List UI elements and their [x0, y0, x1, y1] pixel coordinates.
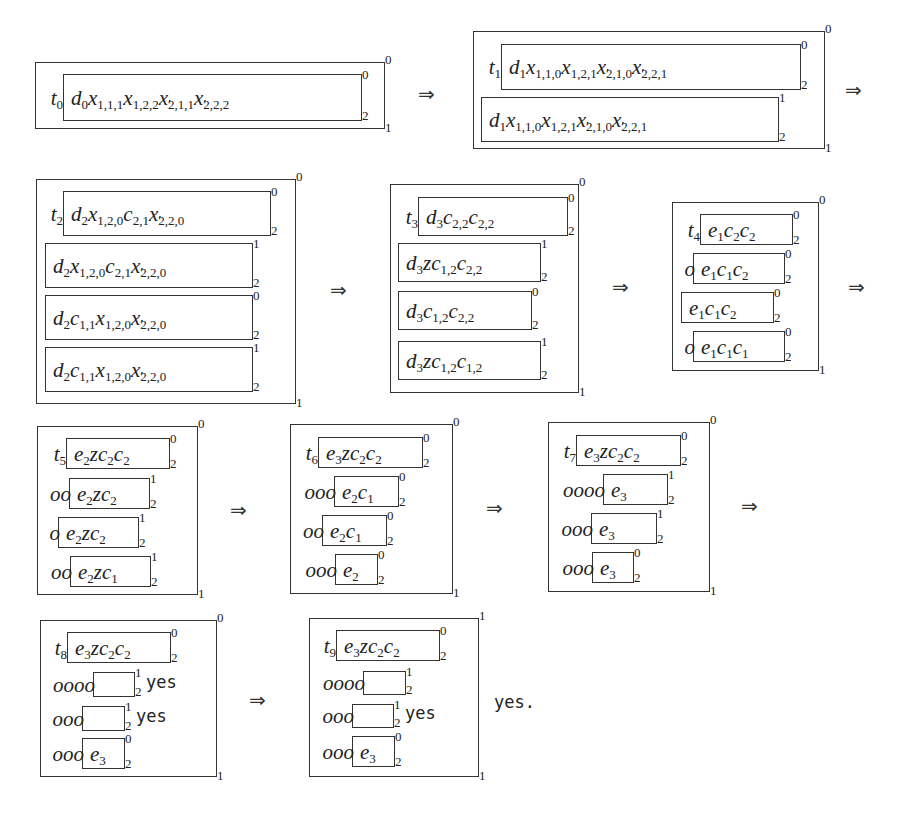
- cell-content: e3: [600, 556, 616, 580]
- cell-top-label: 0: [801, 38, 808, 51]
- cell-bottom-label: 2: [779, 130, 786, 143]
- outer-bottom-label: 1: [296, 396, 303, 409]
- cell-content: e2zc2: [77, 482, 117, 506]
- configuration-label: t5: [54, 442, 66, 466]
- outer-bottom-label: 1: [453, 586, 460, 599]
- cell-top-label: 1: [150, 472, 157, 485]
- position-marker: ooo: [305, 480, 337, 504]
- cell-top-label: 0: [681, 429, 688, 442]
- cell-top-label: 1: [668, 468, 675, 481]
- cell-bottom-label: 2: [423, 456, 430, 469]
- cell-content: d2c1,1x1,2,0x′2,2,0: [53, 306, 166, 330]
- cell-content: e3: [599, 517, 615, 541]
- position-marker: oooo: [323, 671, 365, 695]
- cell-top-label: 0: [634, 546, 641, 559]
- cell-bottom-label: 2: [125, 757, 132, 770]
- cell-content: d3c2,2c2,2: [426, 205, 494, 229]
- configuration-label: t1: [489, 55, 501, 79]
- cell-bottom-label: 2: [657, 532, 664, 545]
- cell-bottom-label: 2: [541, 368, 548, 381]
- position-marker: oooo: [53, 673, 95, 697]
- transition-arrow-icon: ⇒: [330, 280, 347, 300]
- cell-top-label: 0: [440, 624, 447, 637]
- cell-content: d2x1,2,0c2,1x′2,2,0: [71, 202, 184, 226]
- outer-top-label: 1: [479, 609, 486, 622]
- position-marker: ooo: [306, 558, 338, 582]
- transition-arrow-icon: ⇒: [741, 496, 758, 516]
- outer-bottom-label: 1: [217, 769, 224, 782]
- cell-content: d3c1,2c2,2: [406, 299, 474, 323]
- position-marker: oo: [51, 560, 72, 584]
- position-marker: ooo: [323, 740, 355, 764]
- cell-top-label: 0: [793, 208, 800, 221]
- cell-bottom-label: 2: [394, 716, 401, 729]
- cell-content: e2: [343, 558, 359, 582]
- cell-top-label: 1: [779, 91, 786, 104]
- cell-bottom-label: 2: [395, 755, 402, 768]
- cell-bottom-label: 2: [151, 575, 158, 588]
- transition-arrow-icon: ⇒: [612, 277, 629, 297]
- cell-bottom-label: 2: [532, 318, 539, 331]
- cell-bottom-label: 2: [785, 272, 792, 285]
- cell-bottom-label: 2: [171, 651, 178, 664]
- cell-content: d1x1,1,0x1,2,1x′2,1,0x′2,2,1: [509, 55, 667, 79]
- transition-arrow-icon: ⇒: [845, 80, 862, 100]
- cell-bottom-label: 2: [135, 685, 142, 698]
- position-marker: o: [685, 257, 696, 281]
- cell-top-label: 0: [532, 285, 539, 298]
- outer-top-label: 0: [579, 175, 586, 188]
- cell-top-label: 0: [171, 626, 178, 639]
- cell-top-label: 0: [774, 286, 781, 299]
- cell-top-label: 0: [395, 730, 402, 743]
- configuration-label: t8: [55, 636, 67, 660]
- position-marker: oooo: [563, 478, 605, 502]
- configuration-label: t3: [406, 205, 418, 229]
- position-marker: o: [50, 521, 61, 545]
- outer-top-label: 0: [825, 22, 832, 35]
- cell-top-label: 1: [541, 335, 548, 348]
- cell-top-label: 0: [785, 325, 792, 338]
- transition-arrow-icon: ⇒: [486, 498, 503, 518]
- position-marker: ooo: [53, 707, 85, 731]
- cell-content: e1c1c1: [701, 335, 748, 359]
- cell-bottom-label: 2: [793, 233, 800, 246]
- cell-box: [352, 704, 394, 728]
- transition-arrow-icon: ⇒: [418, 84, 435, 104]
- cell-top-label: 1: [657, 507, 664, 520]
- cell-box: [93, 672, 135, 697]
- outer-top-label: 0: [453, 415, 460, 428]
- cell-content: e2c1: [330, 519, 362, 543]
- configuration-label: t2: [51, 202, 63, 226]
- cell-content: e1c1c2: [689, 296, 736, 320]
- cell-top-label: 0: [170, 432, 177, 445]
- configuration-label: t6: [306, 441, 318, 465]
- cell-bottom-label: 2: [406, 683, 413, 696]
- cell-box: [363, 671, 406, 695]
- cell-content: d0x1,1,1x1,2,2x′2,1,1x′2,2,2: [71, 86, 229, 110]
- position-marker: oo: [50, 482, 71, 506]
- outer-top-label: 0: [710, 413, 717, 426]
- cell-content: e3: [90, 742, 106, 766]
- cell-top-label: 0: [125, 732, 132, 745]
- cell-top-label: 0: [362, 68, 369, 81]
- outer-bottom-label: 1: [825, 141, 832, 154]
- outer-top-label: 0: [385, 53, 392, 66]
- accept-marker: yes: [146, 673, 177, 691]
- cell-content: d2c1,1x1,2,0x′2,2,0: [53, 358, 166, 382]
- cell-top-label: 1: [139, 511, 146, 524]
- cell-bottom-label: 2: [170, 457, 177, 470]
- cell-box: [82, 706, 125, 731]
- configuration-label: t4: [688, 218, 700, 242]
- outer-bottom-label: 1: [385, 121, 392, 134]
- outer-top-label: 0: [819, 193, 826, 206]
- cell-top-label: 1: [253, 341, 260, 354]
- cell-bottom-label: 2: [271, 224, 278, 237]
- position-marker: oo: [303, 519, 324, 543]
- accept-marker: yes: [136, 707, 167, 725]
- outer-bottom-label: 1: [710, 584, 717, 597]
- configuration-label: t7: [564, 439, 576, 463]
- cell-content: e1c2c2: [708, 218, 755, 242]
- cell-bottom-label: 2: [362, 109, 369, 122]
- cell-content: e2zc1: [78, 560, 118, 584]
- cell-content: d3zc1,2c2,2: [406, 251, 482, 275]
